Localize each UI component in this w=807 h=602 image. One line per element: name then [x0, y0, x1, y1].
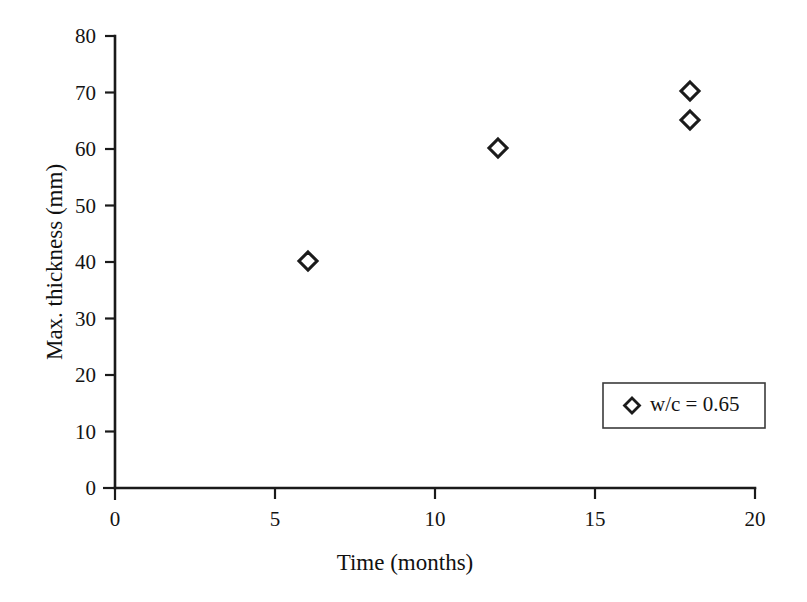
y-tick-label-10: 10: [75, 420, 96, 444]
y-axis-ticks: 0 10 20 30 40 50 60 70 80: [75, 24, 115, 500]
scatter-plot-canvas: 0 10 20 30 40 50 60 70 80 0 5 10 15 20 T…: [0, 0, 807, 602]
data-series-wc-065: [299, 82, 699, 270]
data-point-marker: [681, 82, 699, 100]
y-tick-label-70: 70: [75, 81, 96, 105]
chart-figure: 0 10 20 30 40 50 60 70 80 0 5 10 15 20 T…: [0, 0, 807, 602]
data-point-marker: [299, 252, 317, 270]
y-tick-label-30: 30: [75, 307, 96, 331]
chart-legend: w/c = 0.65: [603, 383, 765, 428]
y-axis-title: Max. thickness (mm): [42, 164, 67, 360]
y-tick-label-0: 0: [86, 476, 97, 500]
data-point-marker: [489, 139, 507, 157]
x-tick-label-15: 15: [585, 507, 606, 531]
x-tick-label-0: 0: [110, 507, 121, 531]
y-tick-label-50: 50: [75, 194, 96, 218]
data-point-marker: [681, 111, 699, 129]
y-tick-label-40: 40: [75, 250, 96, 274]
legend-entry-label: w/c = 0.65: [650, 392, 739, 416]
x-tick-label-5: 5: [270, 507, 281, 531]
x-tick-label-20: 20: [745, 507, 766, 531]
x-axis-ticks: 0 5 10 15 20: [110, 488, 766, 531]
x-axis-title: Time (months): [337, 550, 474, 575]
y-tick-label-60: 60: [75, 137, 96, 161]
y-tick-label-20: 20: [75, 363, 96, 387]
x-tick-label-10: 10: [425, 507, 446, 531]
y-tick-label-80: 80: [75, 24, 96, 48]
